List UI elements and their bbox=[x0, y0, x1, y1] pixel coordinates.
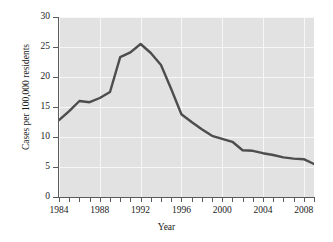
x-tick-mark bbox=[151, 197, 152, 202]
x-tick-mark bbox=[59, 197, 60, 202]
plot-area bbox=[59, 17, 314, 197]
y-axis-title: Cases per 100,000 residents bbox=[21, 17, 31, 177]
x-tick-mark bbox=[253, 197, 254, 202]
y-tick-label: 10 bbox=[41, 132, 51, 142]
x-tick-label: 1996 bbox=[172, 205, 191, 215]
x-tick-mark bbox=[202, 197, 203, 202]
x-tick-mark bbox=[263, 197, 264, 202]
y-tick-label: 20 bbox=[41, 72, 51, 82]
x-tick-mark bbox=[294, 197, 295, 202]
x-tick-mark bbox=[314, 197, 315, 202]
x-tick-mark bbox=[161, 197, 162, 202]
x-tick-mark bbox=[304, 197, 305, 202]
line-chart: 051015202530 198419881992199620002004200… bbox=[0, 0, 333, 242]
x-tick-mark bbox=[273, 197, 274, 202]
y-tick-mark bbox=[53, 137, 59, 138]
y-tick-label: 25 bbox=[41, 42, 51, 52]
y-tick-label: 30 bbox=[41, 12, 51, 22]
x-axis-line bbox=[58, 197, 314, 198]
x-tick-label: 1984 bbox=[50, 205, 69, 215]
x-tick-mark bbox=[79, 197, 80, 202]
y-tick-mark bbox=[53, 47, 59, 48]
y-tick-mark bbox=[53, 107, 59, 108]
x-tick-mark bbox=[90, 197, 91, 202]
y-tick-mark bbox=[53, 167, 59, 168]
x-tick-label: 2008 bbox=[294, 205, 313, 215]
x-tick-mark bbox=[181, 197, 182, 202]
x-tick-mark bbox=[100, 197, 101, 202]
x-tick-mark bbox=[171, 197, 172, 202]
x-tick-mark bbox=[141, 197, 142, 202]
x-tick-mark bbox=[130, 197, 131, 202]
y-tick-label: 15 bbox=[41, 102, 51, 112]
x-tick-mark bbox=[120, 197, 121, 202]
y-tick-label: 0 bbox=[45, 192, 50, 202]
x-tick-label: 1992 bbox=[131, 205, 150, 215]
x-tick-label: 2000 bbox=[213, 205, 232, 215]
x-tick-mark bbox=[232, 197, 233, 202]
x-tick-mark bbox=[222, 197, 223, 202]
x-tick-mark bbox=[283, 197, 284, 202]
y-tick-mark bbox=[53, 17, 59, 18]
x-tick-mark bbox=[192, 197, 193, 202]
x-tick-mark bbox=[69, 197, 70, 202]
data-series-line bbox=[59, 17, 314, 197]
x-tick-label: 1988 bbox=[90, 205, 109, 215]
x-axis-title: Year bbox=[0, 222, 333, 232]
y-tick-label: 5 bbox=[45, 162, 50, 172]
x-tick-mark bbox=[212, 197, 213, 202]
x-tick-label: 2004 bbox=[254, 205, 273, 215]
y-tick-mark bbox=[53, 77, 59, 78]
x-tick-mark bbox=[110, 197, 111, 202]
x-tick-mark bbox=[243, 197, 244, 202]
